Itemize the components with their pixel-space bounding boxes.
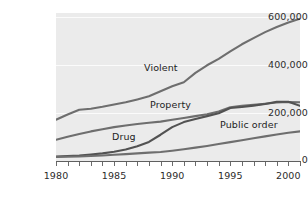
crime-trend-chart: 600,000 400,000 200,000 0 19801985199019… xyxy=(0,0,308,197)
series-label-drug: Drug xyxy=(112,131,136,142)
x-tick-2001 xyxy=(300,162,301,166)
x-tick-1988 xyxy=(149,162,150,166)
x-tick-label-1985: 1985 xyxy=(102,170,127,181)
x-tick-1983 xyxy=(91,162,92,166)
x-tick-1992 xyxy=(195,162,196,166)
x-tick-1990 xyxy=(172,162,173,166)
series-line-public-order xyxy=(56,131,300,157)
plot-area xyxy=(56,13,300,161)
ytick-label-400000: 400,000 xyxy=(256,60,308,70)
x-tick-1997 xyxy=(254,162,255,166)
x-tick-1987 xyxy=(137,162,138,166)
series-lines xyxy=(56,13,300,161)
x-tick-1985 xyxy=(114,162,115,166)
x-tick-1989 xyxy=(161,162,162,166)
x-tick-1986 xyxy=(126,162,127,166)
x-tick-label-1995: 1995 xyxy=(218,170,243,181)
x-tick-1995 xyxy=(230,162,231,166)
x-tick-1991 xyxy=(184,162,185,166)
x-tick-1996 xyxy=(242,162,243,166)
x-tick-1999 xyxy=(277,162,278,166)
x-tick-1993 xyxy=(207,162,208,166)
x-tick-1994 xyxy=(219,162,220,166)
series-label-property: Property xyxy=(150,99,191,110)
ytick-label-600000: 600,000 xyxy=(256,12,308,22)
x-tick-1984 xyxy=(102,162,103,166)
ytick-label-200000: 200,000 xyxy=(256,108,308,118)
x-tick-1980 xyxy=(56,162,57,166)
x-tick-label-2000: 2000 xyxy=(276,170,301,181)
x-tick-label-1990: 1990 xyxy=(160,170,185,181)
x-tick-1982 xyxy=(79,162,80,166)
x-tick-label-1980: 1980 xyxy=(44,170,69,181)
series-label-violent: Violent xyxy=(144,62,178,73)
series-label-public-order: Public order xyxy=(220,119,278,130)
x-tick-1998 xyxy=(265,162,266,166)
x-tick-1981 xyxy=(68,162,69,166)
x-tick-2000 xyxy=(288,162,289,166)
